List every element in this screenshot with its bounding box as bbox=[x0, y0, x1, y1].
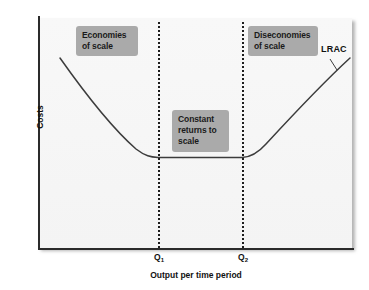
annotation-constant-line-1: Constant bbox=[178, 114, 214, 124]
y-axis-title: Costs bbox=[35, 87, 45, 147]
x-tick-q2-subscript: 2 bbox=[245, 257, 248, 263]
series-label-lrac: LRAC bbox=[321, 44, 347, 54]
annotation-constant-line-3: scale bbox=[178, 136, 199, 146]
annotation-economies-of-scale: Economies of scale bbox=[76, 26, 138, 56]
guide-line-q2 bbox=[242, 22, 244, 248]
lrac-leader-line bbox=[330, 59, 337, 70]
annotation-economies-line-1: Economies bbox=[82, 30, 126, 40]
annotation-economies-line-2: of scale bbox=[82, 41, 113, 51]
x-tick-q1-subscript: 1 bbox=[161, 257, 164, 263]
annotation-diseconomies-line-2: of scale bbox=[254, 41, 285, 51]
x-tick-label-q2: Q2 bbox=[238, 252, 248, 262]
annotation-constant-returns-to-scale: Constant returns to scale bbox=[172, 110, 229, 152]
x-axis-title: Output per time period bbox=[38, 270, 354, 280]
annotation-diseconomies-line-1: Diseconomies bbox=[254, 30, 310, 40]
annotation-diseconomies-of-scale: Diseconomies of scale bbox=[248, 26, 318, 56]
x-tick-q2-base: Q bbox=[238, 252, 245, 262]
guide-line-q1 bbox=[158, 22, 160, 248]
lrac-cost-curve-figure: Economies of scale Constant returns to s… bbox=[0, 0, 369, 290]
x-tick-label-q1: Q1 bbox=[154, 252, 164, 262]
x-tick-q1-base: Q bbox=[154, 252, 161, 262]
annotation-constant-line-2: returns to bbox=[178, 125, 217, 135]
